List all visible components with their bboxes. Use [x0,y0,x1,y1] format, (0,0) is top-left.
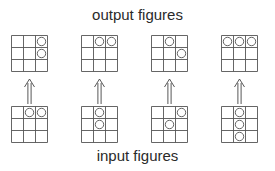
double-up-arrow-icon [165,79,175,104]
circle-token-icon [235,132,243,140]
figure-diagram [0,0,275,171]
circle-token-icon [235,37,243,45]
double-up-arrow-icon [235,79,245,104]
circle-token-icon [177,49,185,57]
output-grid-1 [12,36,48,72]
input-grid-3 [152,107,188,143]
circle-token-icon [177,108,185,116]
circle-token-icon [235,120,243,128]
circle-token-icon [37,108,45,116]
circle-token-icon [37,49,45,57]
input-grid-2 [82,107,118,143]
double-up-arrow-icon [25,79,35,104]
circle-token-icon [107,37,115,45]
circle-token-icon [95,108,103,116]
output-grid-4 [222,36,258,72]
output-grid-2 [82,36,118,72]
circle-token-icon [95,120,103,128]
circle-token-icon [165,120,173,128]
circle-token-icon [95,37,103,45]
circle-token-icon [165,37,173,45]
circle-token-icon [37,37,45,45]
input-grid-1 [12,107,48,143]
output-grid-3 [152,36,188,72]
circle-token-icon [223,37,231,45]
double-up-arrow-icon [95,79,105,104]
circle-token-icon [247,37,255,45]
circle-token-icon [235,108,243,116]
circle-token-icon [25,108,33,116]
input-grid-4 [222,107,258,143]
input-figures-label: input figures [0,147,275,165]
